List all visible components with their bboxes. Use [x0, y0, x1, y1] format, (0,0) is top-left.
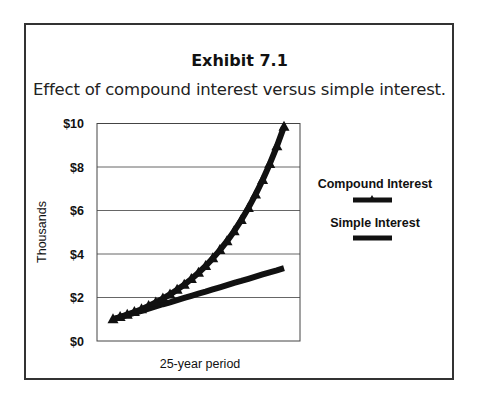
y-tick-labels: $0$2$4$6$8$10: [63, 117, 84, 349]
y-tick-label: $10: [63, 117, 84, 131]
y-tick-label: $0: [70, 335, 84, 349]
x-axis-label: 25-year period: [160, 357, 241, 371]
y-tick-label: $6: [70, 204, 84, 218]
legend-label-simple-interest: Simple Interest: [330, 216, 420, 230]
series-group: [108, 121, 290, 323]
series-line-compound-interest: [113, 127, 284, 319]
compound-point-marker: [279, 121, 290, 131]
legend-label-compound-interest: Compound Interest: [318, 177, 433, 191]
gridlines: [97, 167, 300, 298]
y-tick-label: $4: [70, 248, 84, 262]
legend: Compound InterestSimple Interest: [318, 177, 433, 238]
plot-area: [97, 124, 300, 342]
y-axis-label: Thousands: [35, 201, 49, 263]
y-tick-label: $8: [70, 161, 84, 175]
chart: $0$2$4$6$8$10 Thousands 25-year period C…: [0, 0, 479, 401]
y-tick-label: $2: [70, 291, 84, 305]
